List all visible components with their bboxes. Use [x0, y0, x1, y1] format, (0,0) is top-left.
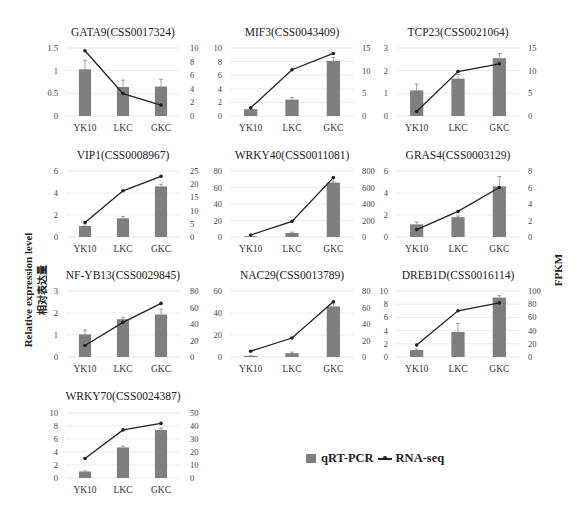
- right-tick-label: 200: [362, 216, 375, 226]
- line-marker: [121, 189, 125, 193]
- line-marker: [456, 210, 460, 214]
- left-tick-label: 20: [214, 216, 223, 226]
- left-tick-label: 8: [218, 57, 222, 67]
- right-tick-label: 80: [362, 286, 371, 296]
- x-tick-label: YK10: [405, 364, 428, 374]
- left-tick-label: 0: [218, 111, 222, 121]
- right-tick-label: 60: [528, 312, 537, 322]
- left-tick-label: 6: [218, 70, 222, 80]
- line-marker: [159, 302, 163, 306]
- line-marker: [83, 457, 87, 461]
- line-marker: [249, 349, 253, 353]
- right-tick-label: 4: [190, 84, 195, 94]
- left-tick-label: 8: [384, 299, 388, 309]
- right-tick-label: 0: [528, 232, 532, 242]
- line-marker: [290, 220, 294, 224]
- bar: [155, 430, 167, 478]
- chart-panel: TCP23(CSS0021064)0123051015YK10LKCGKC: [384, 26, 537, 133]
- left-tick-label: 2: [54, 460, 58, 470]
- bar: [410, 350, 423, 357]
- x-tick-label: GKC: [489, 123, 509, 133]
- x-tick-label: GKC: [323, 244, 343, 254]
- x-tick-label: YK10: [73, 123, 96, 133]
- left-tick-label: 2: [384, 210, 388, 220]
- right-tick-label: 100: [528, 286, 541, 296]
- line-marker: [121, 321, 125, 325]
- x-tick-label: YK10: [405, 123, 428, 133]
- bar: [79, 226, 91, 237]
- figure: GATA9(CSS0017324)00.511.50246810YK10LKCG…: [0, 0, 578, 524]
- chart-panel: GRAS4(CSS0003129)024602468YK10LKCGKC: [384, 149, 533, 254]
- right-tick-label: 15: [528, 43, 537, 53]
- left-tick-label: 2: [384, 339, 388, 349]
- x-tick-label: YK10: [73, 364, 96, 374]
- chart-panel: NAC29(CSS0013789)0204060020406080YK10LKC…: [214, 269, 371, 374]
- left-tick-label: 4: [384, 188, 389, 198]
- x-tick-label: LKC: [283, 123, 302, 133]
- bar: [155, 315, 167, 357]
- right-tick-label: 15: [362, 43, 371, 53]
- x-tick-label: YK10: [73, 485, 96, 495]
- bar: [451, 79, 464, 116]
- left-tick-label: 6: [384, 312, 388, 322]
- x-tick-label: LKC: [449, 244, 468, 254]
- left-tick-label: 6: [54, 434, 58, 444]
- left-axis-label-zh: 相对表达量: [36, 265, 48, 315]
- left-tick-label: 2: [384, 66, 388, 76]
- right-tick-label: 10: [190, 206, 199, 216]
- line-marker: [332, 52, 336, 56]
- right-tick-label: 40: [362, 319, 371, 329]
- x-tick-label: LKC: [449, 364, 468, 374]
- line-marker: [498, 186, 502, 190]
- chart-panel: DREB1D(CSS0016114)0246810020406080100YK1…: [380, 269, 541, 374]
- x-tick-label: GKC: [489, 364, 509, 374]
- rna-seq-line: [251, 178, 334, 235]
- right-tick-label: 0: [190, 473, 194, 483]
- line-marker: [498, 62, 502, 66]
- line-marker: [249, 233, 253, 237]
- right-tick-label: 0: [190, 111, 194, 121]
- line-marker: [415, 343, 419, 347]
- left-tick-label: 80: [214, 166, 223, 176]
- chart-title: TCP23(CSS0021064): [408, 26, 509, 39]
- right-tick-label: 6: [190, 70, 194, 80]
- right-tick-label: 10: [362, 66, 371, 76]
- x-tick-label: GKC: [489, 244, 509, 254]
- right-tick-label: 0: [528, 111, 532, 121]
- left-axis-label: Relative expression level 相对表达量: [20, 210, 60, 370]
- right-tick-label: 40: [190, 421, 199, 431]
- x-tick-label: GKC: [323, 364, 343, 374]
- x-tick-label: GKC: [323, 123, 343, 133]
- right-tick-label: 25: [190, 166, 199, 176]
- chart-title: WRKY70(CSS0024387): [65, 390, 180, 403]
- left-tick-label: 4: [384, 326, 389, 336]
- chart-title: GRAS4(CSS0003129): [406, 149, 511, 162]
- line-marker: [121, 92, 125, 96]
- line-marker: [290, 68, 294, 72]
- bar: [327, 61, 340, 116]
- line-marker: [332, 176, 336, 180]
- line-marker: [159, 422, 163, 426]
- line-marker: [121, 428, 125, 432]
- bar: [285, 353, 298, 357]
- line-marker: [83, 49, 87, 53]
- left-tick-label: 2: [218, 97, 222, 107]
- right-tick-label: 20: [190, 336, 199, 346]
- bar: [493, 298, 506, 357]
- right-tick-label: 2: [190, 97, 194, 107]
- line-marker: [456, 70, 460, 74]
- right-tick-label: 0: [190, 352, 194, 362]
- right-tick-label: 4: [528, 199, 533, 209]
- right-tick-label: 80: [190, 286, 199, 296]
- left-tick-label: 0: [384, 232, 388, 242]
- line-marker: [332, 300, 336, 304]
- left-tick-label: 4: [54, 447, 59, 457]
- legend-line-label: RNA-seq: [396, 451, 445, 466]
- right-tick-label: 2: [528, 216, 532, 226]
- left-tick-label: 4: [54, 188, 59, 198]
- left-tick-label: 1: [54, 66, 58, 76]
- bar: [244, 109, 257, 116]
- chart-panel: WRKY40(CSS0011081)0204060800200400600800…: [214, 149, 375, 254]
- left-tick-label: 4: [218, 84, 223, 94]
- right-tick-label: 5: [362, 88, 366, 98]
